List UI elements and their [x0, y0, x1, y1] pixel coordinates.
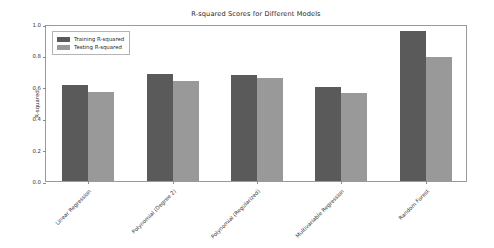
bar [400, 31, 426, 181]
bar [88, 92, 114, 181]
x-tick-label: Random Forest [341, 188, 430, 248]
bar [341, 93, 367, 181]
x-tick-mark [426, 181, 427, 184]
x-tick-mark [341, 181, 342, 184]
x-tick-label: Polynomial (Degree 2) [88, 188, 177, 248]
y-tick-label: 0.8 [21, 53, 41, 59]
y-tick-label: 1.0 [21, 22, 41, 28]
y-tick-mark [43, 151, 46, 152]
bar [315, 87, 341, 181]
legend-swatch-testing [57, 45, 70, 50]
legend-item-training: Training R-squared [57, 35, 124, 43]
bar [426, 57, 452, 181]
chart-title: R-squared Scores for Different Models [45, 10, 467, 18]
legend-label-testing: Testing R-squared [74, 43, 122, 51]
x-tick-label: Linear Regression [3, 188, 92, 248]
x-tick-label: Multivariable Regression [257, 188, 346, 248]
y-tick-label: 0.6 [21, 85, 41, 91]
y-tick-label: 0.4 [21, 116, 41, 122]
y-tick-label: 0.0 [21, 179, 41, 185]
bar [147, 74, 173, 181]
x-tick-mark [257, 181, 258, 184]
chart-legend: Training R-squared Testing R-squared [52, 31, 130, 55]
x-tick-mark [173, 181, 174, 184]
bar [231, 75, 257, 181]
legend-item-testing: Testing R-squared [57, 43, 124, 51]
figure-canvas: R-squared Scores for Different Models R-… [0, 0, 494, 248]
x-tick-label: Polynomial (Regularized) [172, 188, 261, 248]
y-tick-label: 0.2 [21, 148, 41, 154]
y-axis-label: R-squared [34, 90, 40, 117]
plot-area: R-squared 0.00.20.40.60.81.0 Linear Regr… [45, 25, 467, 182]
legend-label-training: Training R-squared [74, 35, 124, 43]
y-tick-mark [43, 183, 46, 184]
x-tick-mark [88, 181, 89, 184]
y-tick-mark [43, 88, 46, 89]
y-tick-mark [43, 26, 46, 27]
bar [173, 81, 199, 181]
y-tick-mark [43, 120, 46, 121]
y-tick-mark [43, 57, 46, 58]
bar [257, 78, 283, 181]
bar [62, 85, 88, 181]
legend-swatch-training [57, 37, 70, 42]
